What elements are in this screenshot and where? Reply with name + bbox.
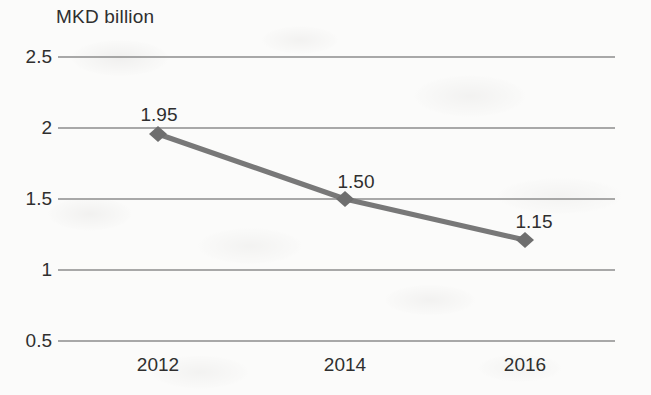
x-axis-tick-label-2016: 2016 [504,355,546,374]
data-label-2016: 1.15 [516,212,553,231]
y-axis-tick-label-1-5: 1.5 [0,189,52,208]
plot-area [0,0,651,395]
x-axis-tick-label-2012: 2012 [137,355,179,374]
x-axis-tick-label-2014: 2014 [324,355,366,374]
data-label-2014: 1.50 [338,172,375,191]
y-axis-tick-label-0-5: 0.5 [0,331,52,350]
data-label-2012: 1.95 [141,105,178,124]
y-axis-tick-label-2: 2 [0,118,52,137]
y-axis-tick-label-2-5: 2.5 [0,47,52,66]
data-point-marker-2014[interactable] [336,191,354,207]
data-point-marker-2016[interactable] [516,232,534,248]
chart-page: MKD billion 2.5 2 1.5 1 0.5 1.95 [0,0,651,395]
y-axis-tick-label-1: 1 [0,260,52,279]
